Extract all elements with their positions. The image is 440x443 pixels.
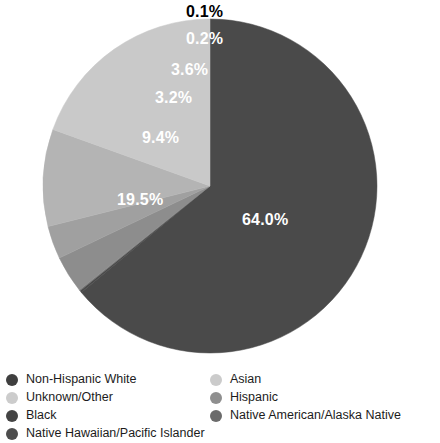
legend-item[interactable]: Non-Hispanic White [6, 371, 205, 388]
legend-column-right: AsianHispanicNative American/Alaska Nati… [210, 371, 401, 425]
legend-item-label: Hispanic [230, 391, 278, 404]
legend-item[interactable]: Hispanic [210, 389, 401, 406]
pie-svg [0, 0, 440, 370]
legend-item[interactable]: Asian [210, 371, 401, 388]
legend: Non-Hispanic WhiteUnknown/OtherBlackNati… [0, 371, 440, 443]
legend-item[interactable]: Native Hawaiian/Pacific Islander [6, 425, 205, 442]
circle-marker-icon [6, 392, 18, 404]
legend-item-label: Native American/Alaska Native [230, 409, 401, 422]
legend-item-label: Unknown/Other [26, 391, 113, 404]
legend-item[interactable]: Black [6, 407, 205, 424]
pie-slice-label: 19.5% [117, 192, 163, 208]
circle-marker-icon [210, 410, 222, 422]
legend-item[interactable]: Unknown/Other [6, 389, 205, 406]
pie-slice-label: 64.0% [242, 212, 288, 228]
pie-chart: 0.1%0.2%3.6%3.2%9.4%19.5%64.0% [0, 0, 440, 370]
circle-marker-icon [210, 392, 222, 404]
circle-marker-icon [6, 410, 18, 422]
pie-slice-label: 9.4% [142, 130, 179, 146]
circle-marker-icon [6, 374, 18, 386]
pie-slice-label: 0.1% [186, 4, 223, 20]
legend-item-label: Asian [230, 373, 261, 386]
circle-marker-icon [6, 428, 18, 440]
pie-slice-label: 3.6% [171, 62, 208, 78]
pie-slice-label: 0.2% [186, 31, 223, 47]
legend-item-label: Native Hawaiian/Pacific Islander [26, 427, 205, 440]
legend-item[interactable]: Native American/Alaska Native [210, 407, 401, 424]
circle-marker-icon [210, 374, 222, 386]
legend-column-left: Non-Hispanic WhiteUnknown/OtherBlackNati… [6, 371, 205, 443]
pie-slice-label: 3.2% [155, 90, 192, 106]
legend-item-label: Black [26, 409, 57, 422]
legend-item-label: Non-Hispanic White [26, 373, 136, 386]
